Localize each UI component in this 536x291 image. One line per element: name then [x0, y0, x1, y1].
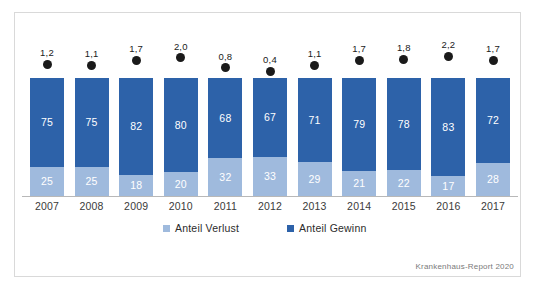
bar-segment-verlust: 33 [253, 157, 287, 196]
source-note: Krankenhaus-Report 2020 [416, 262, 514, 271]
data-point-dot [310, 61, 319, 70]
x-axis-line [22, 196, 518, 197]
bar-segment-verlust: 25 [75, 167, 109, 197]
bar-segment-verlust: 20 [164, 172, 198, 196]
bar-value-label: 25 [86, 176, 98, 187]
data-point-dot [399, 55, 408, 64]
bar-segment-gewinn: 68 [208, 78, 242, 158]
x-axis-tick-label: 2008 [70, 200, 114, 212]
x-axis-tick-label: 2017 [471, 200, 515, 212]
bar-segment-verlust: 21 [342, 171, 376, 196]
data-point-label: 0,4 [250, 54, 290, 65]
bar-segment-gewinn: 72 [476, 78, 510, 163]
bar-group: 7228 [476, 78, 510, 196]
bar-value-label: 78 [398, 119, 410, 130]
data-point-dot [87, 61, 96, 70]
bar-group: 6832 [208, 78, 242, 196]
legend-label: Anteil Verlust [175, 222, 239, 234]
bar-value-label: 18 [130, 180, 142, 191]
chart-legend: Anteil VerlustAnteil Gewinn [163, 222, 366, 234]
bar-segment-gewinn: 75 [75, 78, 109, 167]
x-axis-tick-label: 2009 [114, 200, 158, 212]
bar-segment-gewinn: 75 [30, 78, 64, 167]
bar-value-label: 72 [487, 115, 499, 126]
legend-swatch-icon [163, 225, 170, 232]
data-point-label: 1,8 [384, 42, 424, 53]
legend-item[interactable]: Anteil Verlust [163, 222, 239, 234]
bar-segment-gewinn: 82 [119, 78, 153, 175]
bar-group: 7525 [30, 78, 64, 196]
bar-segment-verlust: 29 [298, 162, 332, 196]
bar-segment-gewinn: 83 [431, 78, 465, 176]
data-point-label: 2,2 [428, 39, 468, 50]
bar-segment-verlust: 18 [119, 175, 153, 196]
x-axis-tick-label: 2012 [248, 200, 292, 212]
x-axis-tick-label: 2016 [426, 200, 470, 212]
bar-value-label: 25 [41, 176, 53, 187]
data-point-dot [221, 63, 230, 72]
bar-segment-verlust: 25 [30, 167, 64, 197]
bar-value-label: 28 [487, 174, 499, 185]
bar-value-label: 82 [130, 121, 142, 132]
x-axis-tick-label: 2013 [293, 200, 337, 212]
data-point-label: 1,2 [27, 47, 67, 58]
bar-group: 8020 [164, 78, 198, 196]
bar-group: 8218 [119, 78, 153, 196]
bar-value-label: 33 [264, 171, 276, 182]
data-point-dot [176, 53, 185, 62]
bar-value-label: 83 [442, 122, 454, 133]
bar-segment-gewinn: 79 [342, 78, 376, 171]
bar-segment-gewinn: 80 [164, 78, 198, 172]
bar-segment-gewinn: 71 [298, 78, 332, 162]
data-point-label: 0,8 [205, 51, 245, 62]
x-axis-tick-label: 2011 [203, 200, 247, 212]
bar-value-label: 75 [41, 117, 53, 128]
bar-segment-gewinn: 67 [253, 78, 287, 157]
bar-group: 8317 [431, 78, 465, 196]
chart-plot-area: 75251,2200775251,1200882181,7200980202,0… [0, 0, 536, 291]
bar-value-label: 80 [175, 120, 187, 131]
bar-value-label: 71 [309, 115, 321, 126]
data-point-label: 2,0 [161, 41, 201, 52]
bar-group: 7921 [342, 78, 376, 196]
bar-value-label: 67 [264, 112, 276, 123]
x-axis-tick-label: 2007 [25, 200, 69, 212]
bar-value-label: 32 [219, 172, 231, 183]
legend-label: Anteil Gewinn [299, 222, 366, 234]
bar-group: 7129 [298, 78, 332, 196]
x-axis-tick-label: 2010 [159, 200, 203, 212]
bar-value-label: 22 [398, 178, 410, 189]
bar-segment-verlust: 22 [387, 170, 421, 196]
legend-swatch-icon [287, 225, 294, 232]
x-axis-tick-label: 2015 [382, 200, 426, 212]
bar-group: 7822 [387, 78, 421, 196]
bar-group: 6733 [253, 78, 287, 196]
bar-group: 7525 [75, 78, 109, 196]
x-axis-tick-label: 2014 [337, 200, 381, 212]
data-point-dot [355, 56, 364, 65]
legend-item[interactable]: Anteil Gewinn [287, 222, 366, 234]
data-point-dot [132, 56, 141, 65]
data-point-dot [444, 52, 453, 61]
bar-value-label: 20 [175, 179, 187, 190]
bar-segment-verlust: 32 [208, 158, 242, 196]
bar-value-label: 29 [309, 174, 321, 185]
bar-value-label: 17 [442, 181, 454, 192]
data-point-label: 1,7 [473, 43, 513, 54]
bar-segment-gewinn: 78 [387, 78, 421, 170]
data-point-label: 1,1 [295, 48, 335, 59]
bar-value-label: 75 [86, 117, 98, 128]
bar-value-label: 68 [219, 113, 231, 124]
data-point-dot [489, 56, 498, 65]
chart-figure: 75251,2200775251,1200882181,7200980202,0… [0, 0, 536, 291]
bar-value-label: 21 [353, 178, 365, 189]
data-point-dot [266, 67, 275, 76]
data-point-dot [43, 60, 52, 69]
bar-segment-verlust: 17 [431, 176, 465, 196]
bar-segment-verlust: 28 [476, 163, 510, 196]
data-point-label: 1,1 [72, 48, 112, 59]
bar-value-label: 79 [353, 119, 365, 130]
data-point-label: 1,7 [116, 43, 156, 54]
data-point-label: 1,7 [339, 43, 379, 54]
